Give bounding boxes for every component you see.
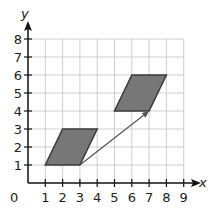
y-tick-label: 2 (14, 140, 22, 155)
x-tick-label: 3 (76, 190, 84, 205)
x-tick-label: 5 (110, 190, 118, 205)
y-tick-label: 6 (14, 68, 22, 83)
arrowhead-icon (142, 111, 149, 118)
y-tick-label: 4 (14, 104, 22, 119)
x-tick-label: 9 (180, 190, 188, 205)
x-tick-label: 4 (93, 190, 101, 205)
y-tick-label: 1 (14, 158, 22, 173)
x-tick-label: 8 (162, 190, 170, 205)
y-tick-label: 3 (14, 122, 22, 137)
y-tick-label: 5 (14, 86, 22, 101)
tick-labels: 12345678912345678 (14, 32, 188, 205)
x-tick-label: 6 (128, 190, 136, 205)
y-tick-label: 7 (14, 50, 22, 65)
coordinate-plane: 12345678912345678 0 x y (0, 0, 215, 208)
x-tick-label: 7 (145, 190, 153, 205)
x-axis-label: x (198, 175, 207, 190)
origin-label: 0 (10, 190, 18, 205)
shapes-layer (45, 75, 166, 165)
y-tick-label: 8 (14, 32, 22, 47)
y-axis-label: y (20, 6, 29, 21)
x-tick-label: 1 (41, 190, 49, 205)
x-tick-label: 2 (58, 190, 66, 205)
